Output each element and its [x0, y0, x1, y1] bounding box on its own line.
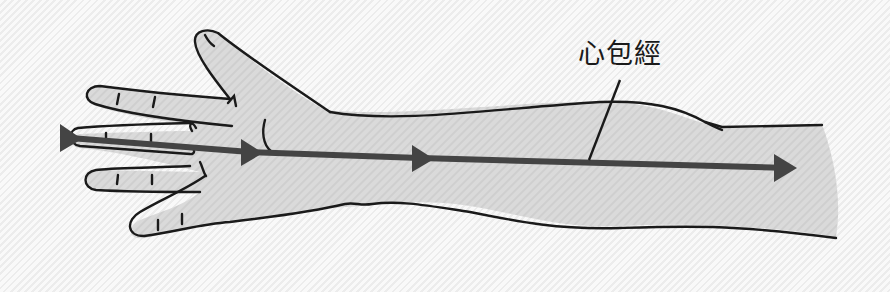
meridian-label: 心包經: [578, 32, 662, 71]
arm-diagram: [0, 0, 890, 292]
arm-silhouette: [72, 30, 838, 238]
